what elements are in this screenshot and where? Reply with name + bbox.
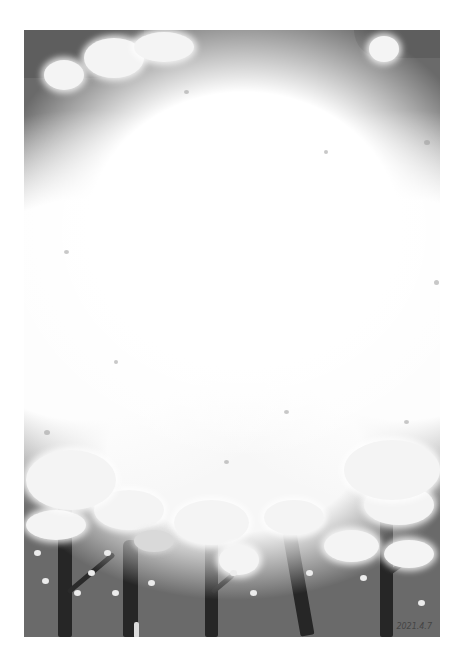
falling-petal — [88, 570, 95, 576]
canopy-texture — [404, 420, 409, 424]
canopy-texture — [224, 460, 229, 464]
artist-signature: 2021.4.7 — [396, 622, 432, 631]
canopy-texture — [184, 90, 189, 94]
falling-petal — [306, 570, 313, 576]
blossom-cluster — [174, 500, 249, 545]
falling-petal — [250, 590, 257, 596]
blossom-cluster — [264, 500, 324, 535]
blossom-cluster — [324, 530, 379, 562]
falling-petal — [42, 578, 49, 584]
falling-petal — [418, 600, 425, 606]
canopy-texture — [324, 150, 328, 154]
falling-petal — [148, 580, 155, 586]
blossom-cluster — [26, 450, 116, 510]
canopy-texture — [44, 430, 50, 435]
blossom-cluster — [369, 36, 399, 62]
blossom-cluster — [219, 545, 259, 575]
small-figure — [134, 622, 139, 637]
canopy-texture — [424, 140, 430, 145]
blossom-cluster — [44, 60, 84, 90]
blossom-cluster — [26, 510, 86, 540]
canopy-texture — [434, 280, 439, 285]
falling-petal — [112, 590, 119, 596]
canopy-texture — [284, 410, 289, 414]
painting: 2021.4.7 — [24, 30, 440, 637]
canopy-texture — [64, 250, 69, 254]
blossom-cluster — [344, 440, 440, 500]
blossom-cluster — [134, 530, 174, 552]
blossom-cluster — [384, 540, 434, 568]
falling-petal — [74, 590, 81, 596]
falling-petal — [230, 570, 237, 576]
blossom-cluster — [134, 32, 194, 62]
canopy-texture — [114, 360, 118, 364]
falling-petal — [34, 550, 41, 556]
falling-petal — [360, 575, 367, 581]
falling-petal — [104, 550, 111, 556]
